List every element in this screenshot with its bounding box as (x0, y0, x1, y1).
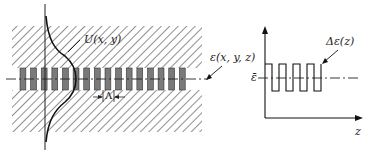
waveguide-grating-diagram (0, 0, 374, 152)
period-label: Λ (105, 91, 112, 101)
mode-profile-label: U(x, y) (84, 34, 121, 45)
permittivity-label: ε(x, y, z) (210, 52, 255, 63)
delta-epsilon-square-wave (265, 64, 321, 91)
mean-epsilon-label: ε̄ (251, 72, 257, 83)
z-axis-label: z (355, 126, 361, 137)
delta-epsilon-label: Δε(z) (326, 36, 354, 47)
